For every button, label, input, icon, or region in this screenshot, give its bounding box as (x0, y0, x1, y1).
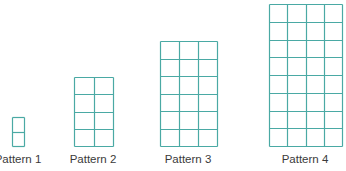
pattern-3-label: Pattern 3 (165, 153, 212, 165)
pattern-2-squares (74, 77, 114, 147)
pattern-2-label: Pattern 2 (70, 153, 117, 165)
pattern-1-label: Pattern 1 (0, 153, 41, 165)
pattern-3-squares (160, 41, 218, 147)
pattern-1-grid (12, 117, 25, 147)
pattern-4-grid (269, 4, 343, 147)
pattern-3-grid (160, 41, 218, 147)
pattern-4-squares (269, 4, 343, 147)
pattern-1-squares (12, 117, 25, 147)
pattern-4-label: Pattern 4 (282, 153, 329, 165)
pattern-2-grid (74, 77, 114, 147)
